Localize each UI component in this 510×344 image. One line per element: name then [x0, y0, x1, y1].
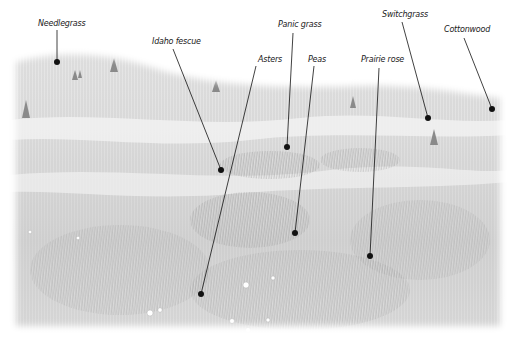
- label-switchgrass: Switchgrass: [382, 10, 428, 19]
- callout-dot: [284, 144, 290, 150]
- label-peas: Peas: [308, 55, 326, 64]
- callout-dot: [54, 59, 60, 65]
- callout-dot: [425, 115, 431, 121]
- callout-dot: [292, 230, 298, 236]
- label-asters: Asters: [258, 55, 282, 64]
- label-panic-grass: Panic grass: [278, 20, 321, 29]
- label-cottonwood: Cottonwood: [444, 25, 490, 34]
- callout-dot: [489, 106, 495, 112]
- label-needlegrass: Needlegrass: [38, 19, 85, 28]
- label-prairie-rose: Prairie rose: [361, 55, 404, 64]
- callout-dot: [367, 253, 373, 259]
- label-idaho-fescue: Idaho fescue: [152, 37, 201, 46]
- callout-dot: [198, 291, 204, 297]
- grassland-field: [0, 0, 510, 344]
- prairie-illustration: [0, 0, 510, 344]
- callout-dot: [218, 167, 224, 173]
